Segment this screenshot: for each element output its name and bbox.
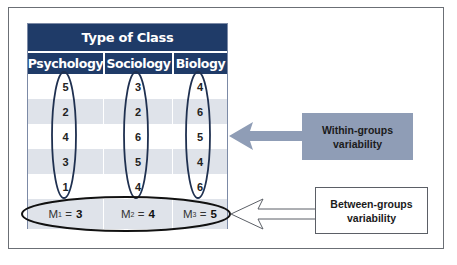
column-header-sociology: Sociology: [103, 53, 172, 74]
column-header-psychology: Psychology: [28, 53, 103, 74]
cell: 6: [103, 124, 172, 149]
cell: 5: [28, 74, 103, 99]
mean-sociology: M2 = 4: [103, 199, 172, 229]
table-row: 1 4 6: [28, 174, 227, 199]
mean-symbol: M: [48, 208, 58, 220]
mean-value: 5: [211, 208, 217, 220]
table-row: 4 6 5: [28, 124, 227, 149]
cell: 4: [28, 124, 103, 149]
mean-equals: =: [196, 208, 209, 220]
mean-equals: =: [134, 208, 147, 220]
between-groups-label-box: Between-groups variability: [315, 187, 428, 234]
mean-value: 4: [149, 208, 155, 220]
within-label-line1: Within-groups: [322, 123, 393, 137]
table-row: 5 3 4: [28, 74, 227, 99]
between-label-line1: Between-groups: [330, 197, 412, 211]
cell: 5: [103, 149, 172, 174]
mean-biology: M3 = 5: [172, 199, 227, 229]
cell: 6: [172, 174, 227, 199]
mean-symbol: M: [183, 208, 193, 220]
cell: 3: [103, 74, 172, 99]
cell: 2: [28, 99, 103, 124]
cell: 1: [28, 174, 103, 199]
table-body: 5 3 4 2 2 6 4 6 5 3 5 4 1 4 6 M1 = 3: [28, 74, 227, 229]
cell: 4: [172, 74, 227, 99]
table-row: 3 5 4: [28, 149, 227, 174]
cell: 6: [172, 99, 227, 124]
means-row: M1 = 3 M2 = 4 M3 = 5: [28, 199, 227, 229]
cell: 5: [172, 124, 227, 149]
class-data-table: Type of Class Psychology Sociology Biolo…: [27, 23, 228, 229]
column-header-row: Psychology Sociology Biology: [28, 51, 227, 74]
mean-psychology: M1 = 3: [28, 199, 103, 229]
within-label-line2: variability: [322, 137, 393, 151]
cell: 4: [103, 174, 172, 199]
mean-value: 3: [76, 208, 82, 220]
between-label-line2: variability: [330, 211, 412, 225]
mean-equals: =: [62, 208, 75, 220]
column-header-biology: Biology: [172, 53, 227, 74]
within-groups-label-box: Within-groups variability: [302, 113, 413, 160]
cell: 2: [103, 99, 172, 124]
mean-symbol: M: [121, 208, 131, 220]
cell: 4: [172, 149, 227, 174]
table-title: Type of Class: [28, 24, 227, 51]
cell: 3: [28, 149, 103, 174]
table-row: 2 2 6: [28, 99, 227, 124]
